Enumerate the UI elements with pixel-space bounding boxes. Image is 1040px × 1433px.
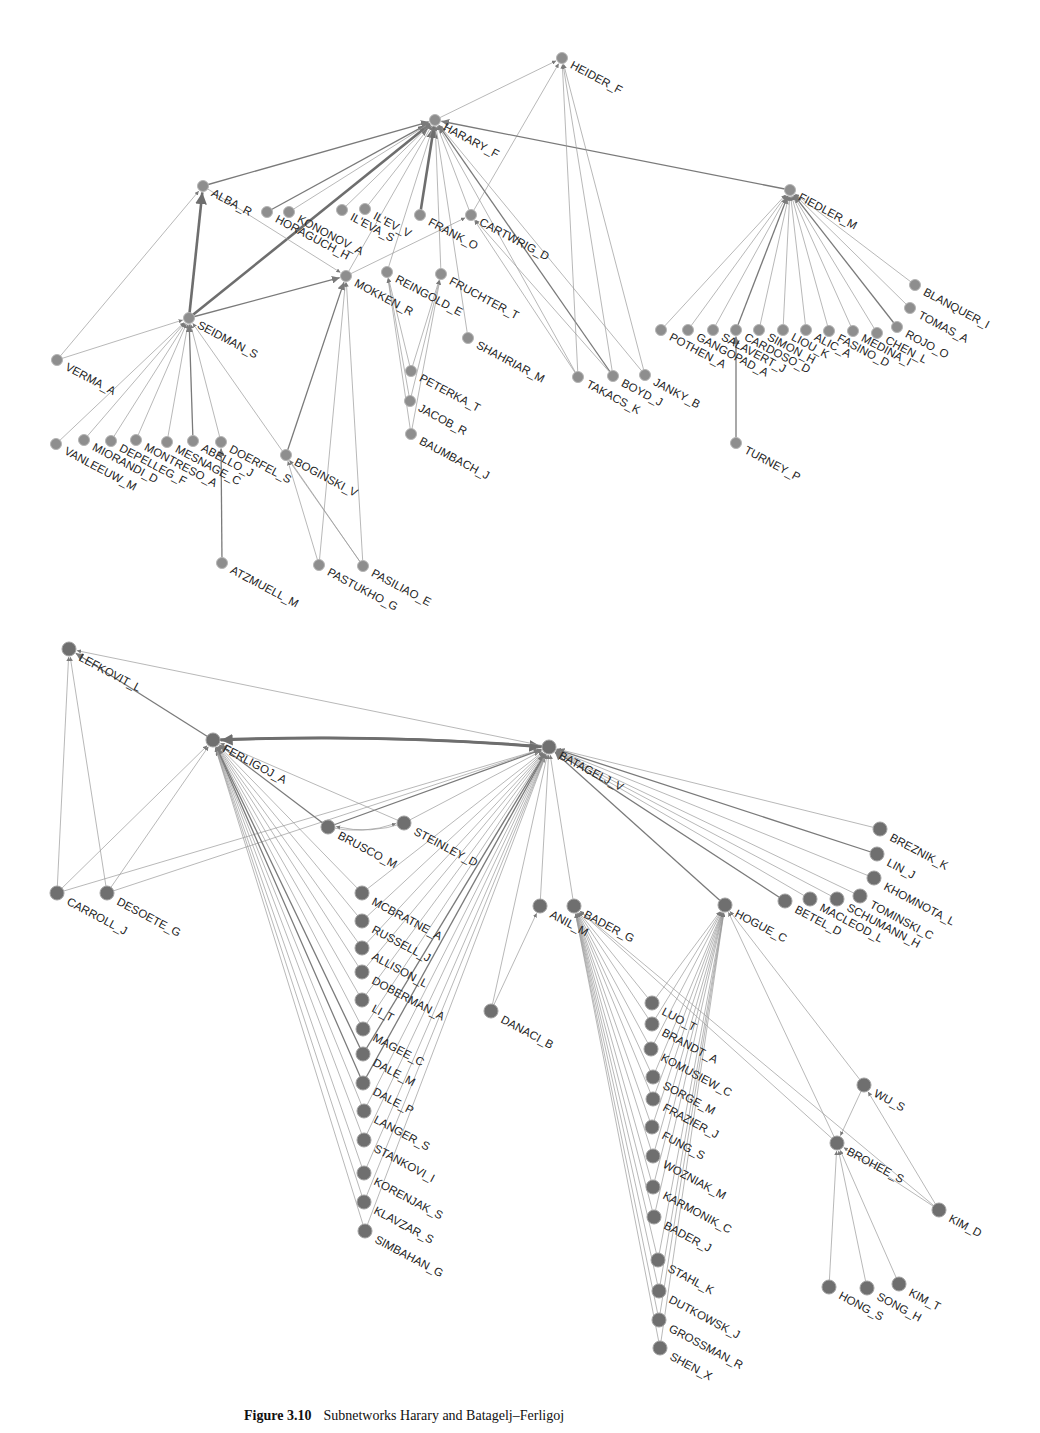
node-circle-icon [50, 886, 64, 900]
node-circle-icon [640, 370, 651, 381]
node-anil_m: ANIL_M [533, 899, 590, 938]
node-circle-icon [198, 181, 209, 192]
edge-ferligoj_a-to-batagelj_v [213, 738, 541, 747]
node-circle-icon [870, 847, 884, 861]
node-label: DALE_P [371, 1085, 416, 1116]
edge-karmonik_c-to-bader_g [576, 914, 653, 1187]
edge-desoete_g-to-lefkovit_l [70, 657, 107, 893]
node-circle-icon [573, 372, 584, 383]
node-label: FUNG_S [660, 1129, 707, 1162]
edge-abello_j-to-seidman_s [189, 324, 193, 441]
node-circle-icon [683, 325, 694, 336]
edge-bader_g-to-batagelj_v [550, 755, 574, 906]
edge-korenjak_s-to-ferligoj_a [216, 748, 364, 1173]
node-circle-icon [355, 886, 369, 900]
node-fiedler_m: FIEDLER_M [785, 185, 860, 232]
node-circle-icon [646, 1092, 660, 1106]
node-label: WU_S [872, 1087, 907, 1113]
node-circle-icon [932, 1203, 946, 1217]
node-circle-icon [355, 965, 369, 979]
edge-bader_j-to-bader_g [576, 914, 654, 1217]
node-label: JACOB_R [417, 402, 469, 437]
edge-anil_m-to-batagelj_v [540, 755, 549, 906]
node-circle-icon [785, 185, 796, 196]
node-circle-icon [356, 1022, 370, 1036]
edge-horaguch_h-to-harary_f [267, 123, 429, 212]
edge-langer_s-to-ferligoj_a [216, 747, 364, 1111]
edge-doberman_a-to-ferligoj_a [217, 747, 362, 972]
edge-tomas_a-to-fiedler_m [795, 195, 910, 308]
node-label: SHEN_X [668, 1350, 715, 1382]
node-circle-icon [397, 816, 411, 830]
edge-lin_j-to-batagelj_v [557, 749, 877, 854]
edge-wozniak_m-to-bader_g [576, 914, 653, 1156]
edge-brohee_s-to-hogue_c [728, 912, 837, 1143]
edge-reingold_e-to-harary_f [387, 126, 433, 272]
node-label: BATAGELJ_V [557, 749, 626, 793]
edge-carroll_j-to-batagelj_v [57, 749, 541, 893]
node-circle-icon [52, 355, 63, 366]
node-circle-icon [382, 267, 393, 278]
node-circle-icon [801, 325, 812, 336]
node-circle-icon [184, 313, 195, 324]
edge-brusco_m-to-batagelj_v [328, 750, 541, 827]
node-turney_p: TURNEY_P [731, 438, 803, 484]
edge-carroll_j-to-lefkovit_l [57, 657, 69, 893]
node-circle-icon [51, 439, 62, 450]
node-circle-icon [79, 435, 90, 446]
edge-wu_s-to-brohee_s [840, 1085, 864, 1136]
node-circle-icon [217, 558, 228, 569]
node-circle-icon [645, 996, 659, 1010]
node-circle-icon [281, 450, 292, 461]
edge-depelleg_f-to-seidman_s [111, 323, 186, 441]
node-circle-icon [778, 325, 789, 336]
node-ferligoj_a: FERLIGOJ_A [206, 733, 289, 786]
node-circle-icon [355, 993, 369, 1007]
node-circle-icon [718, 898, 732, 912]
node-wozniak_m: WOZNIAK_M [646, 1149, 728, 1201]
node-circle-icon [905, 303, 916, 314]
node-circle-icon [646, 1070, 660, 1084]
node-circle-icon [356, 1047, 370, 1061]
node-circle-icon [652, 1284, 666, 1298]
node-circle-icon [557, 53, 568, 64]
node-circle-icon [62, 642, 76, 656]
node-circle-icon [358, 561, 369, 572]
node-circle-icon [867, 871, 881, 885]
edge-steinley_d-to-batagelj_v [404, 751, 542, 823]
edge-mcbratne_a-to-ferligoj_a [219, 746, 362, 893]
node-label: SEIDMAN_S [196, 319, 261, 361]
node-label: ATZMUELL_M [229, 564, 301, 610]
edge-mcbratne_a-to-batagelj_v [362, 752, 543, 893]
node-label: DANACI_B [499, 1013, 556, 1051]
edge-gangopad_a-to-fiedler_m [688, 195, 786, 330]
node-circle-icon [860, 1281, 874, 1295]
node-circle-icon [830, 1136, 844, 1150]
node-circle-icon [731, 325, 742, 336]
edge-harary_f-to-heider_f [435, 61, 556, 120]
node-circle-icon [463, 333, 474, 344]
node-circle-icon [355, 941, 369, 955]
edge-fruchter_t-to-harary_f [435, 126, 441, 274]
edge-mesnage_c-to-seidman_s [167, 324, 188, 442]
node-label: BADER_J [662, 1219, 713, 1254]
node-label: TURNEY_P [743, 444, 803, 484]
node-fruchter_t: FRUCHTER_T [436, 269, 521, 322]
node-circle-icon [356, 1076, 370, 1090]
node-circle-icon [262, 207, 273, 218]
node-circle-icon [436, 269, 447, 280]
node-circle-icon [848, 326, 859, 337]
node-circle-icon [358, 1224, 372, 1238]
edge-allison_l-to-ferligoj_a [218, 747, 362, 948]
node-breznik_k: BREZNIK_K [873, 822, 950, 872]
node-circle-icon [484, 1004, 498, 1018]
subnetwork-harary: HEIDER_FHARARY_FALBA_RHORAGUCH_HKONONOV_… [51, 53, 992, 613]
node-label: ALBA_R [210, 187, 255, 218]
edge-danaci_b-to-anil_m [491, 913, 537, 1011]
edge-klavzar_s-to-batagelj_v [364, 754, 546, 1202]
node-carroll_j: CARROLL_J [50, 886, 129, 937]
edge-takacs_k-to-harary_f [438, 126, 578, 377]
node-circle-icon [910, 280, 921, 291]
edge-verma_a-to-seidman_s [57, 320, 183, 360]
node-circle-icon [466, 210, 477, 221]
